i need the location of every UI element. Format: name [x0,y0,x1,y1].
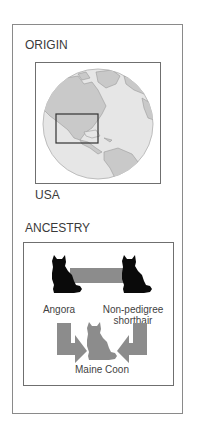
origin-heading: ORIGIN [25,38,68,52]
globe-icon [40,68,156,180]
parent-label-shorthair-line1: Non-pedigree [98,304,168,315]
origin-country: USA [35,188,60,202]
parent-label-angora: Angora [36,304,82,315]
gray-cat-icon [85,322,119,362]
offspring-label: Maine Coon [60,364,144,375]
black-cat-icon [50,255,84,295]
ancestry-heading: ANCESTRY [25,221,90,235]
black-cat-icon [120,255,154,295]
arrow-down-left-icon [117,323,147,363]
arrow-down-right-icon [57,323,87,363]
